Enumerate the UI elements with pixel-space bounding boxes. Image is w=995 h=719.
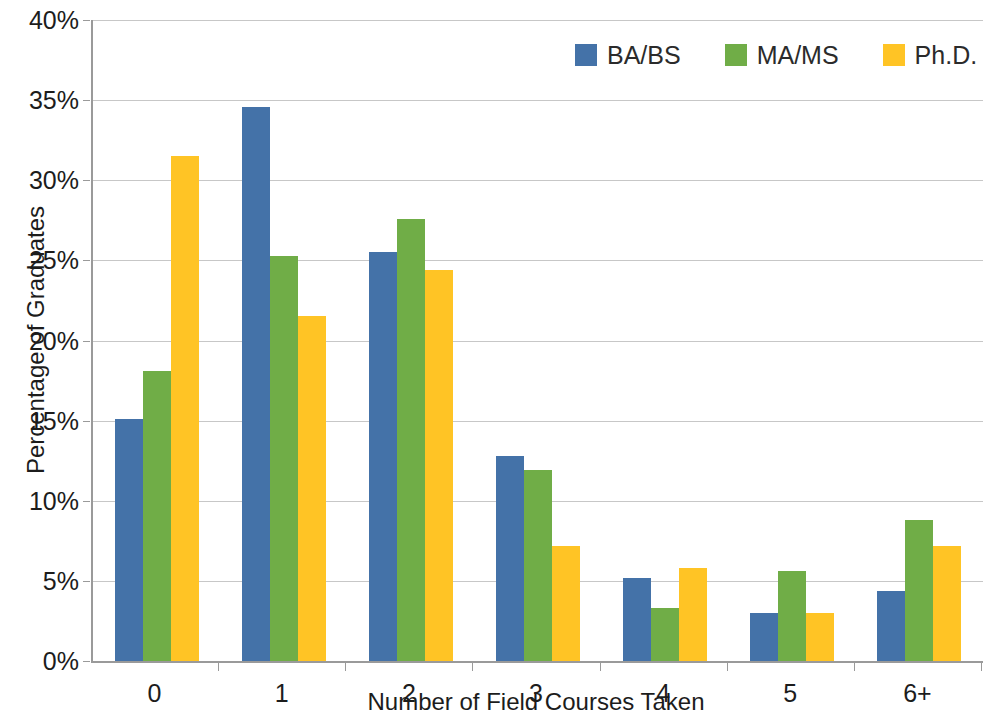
bar-MAMS-2[interactable] [397, 219, 425, 661]
y-axis-tick-label: 30% [0, 166, 79, 195]
y-axis-tick-label: 35% [0, 86, 79, 115]
bar-BABS-3[interactable] [496, 456, 524, 661]
y-axis-tick-mark [83, 421, 90, 422]
bar-MAMS-3[interactable] [524, 470, 552, 661]
x-axis-tick-mark [727, 663, 728, 671]
y-axis-tick-label: 10% [0, 486, 79, 515]
gridline [93, 20, 983, 21]
y-axis-tick-label: 0% [0, 647, 79, 676]
plot-area [91, 20, 983, 663]
bar-PhD-1[interactable] [298, 316, 326, 661]
y-axis-tick-label: 15% [0, 406, 79, 435]
bar-chart: BA/BS MA/MS Ph.D. Percentage of Graduate… [0, 0, 995, 719]
y-axis-tick-mark [83, 661, 90, 662]
bar-PhD-3[interactable] [552, 546, 580, 661]
y-axis-tick-mark [83, 341, 90, 342]
bar-BABS-2[interactable] [369, 252, 397, 661]
bar-MAMS-1[interactable] [270, 256, 298, 661]
bar-BABS-6+[interactable] [877, 591, 905, 662]
bar-PhD-5[interactable] [806, 613, 834, 661]
gridline [93, 260, 983, 261]
gridline [93, 421, 983, 422]
y-axis-tick-mark [83, 581, 90, 582]
x-axis-tick-mark [345, 663, 346, 671]
x-axis-tick-mark [981, 663, 982, 671]
x-axis-title: Number of Field Courses Taken [91, 688, 981, 716]
x-axis-tick-mark [472, 663, 473, 671]
y-axis-tick-label: 5% [0, 566, 79, 595]
bar-BABS-4[interactable] [623, 578, 651, 661]
bar-MAMS-0[interactable] [143, 371, 171, 661]
bar-PhD-6+[interactable] [933, 546, 961, 661]
y-axis-tick-mark [83, 501, 90, 502]
y-axis-tick-label: 40% [0, 6, 79, 35]
x-axis-tick-mark [218, 663, 219, 671]
gridline [93, 100, 983, 101]
y-axis-tick-label: 25% [0, 246, 79, 275]
y-axis-tick-mark [83, 100, 90, 101]
bar-MAMS-6+[interactable] [905, 520, 933, 661]
bar-PhD-2[interactable] [425, 270, 453, 661]
bar-BABS-0[interactable] [115, 419, 143, 661]
y-axis-tick-mark [83, 260, 90, 261]
y-axis-tick-mark [83, 180, 90, 181]
y-axis-tick-mark [83, 20, 90, 21]
x-axis-tick-mark [854, 663, 855, 671]
gridline [93, 180, 983, 181]
bar-PhD-0[interactable] [171, 156, 199, 661]
bar-PhD-4[interactable] [679, 568, 707, 661]
x-axis-tick-mark [600, 663, 601, 671]
y-axis-tick-label: 20% [0, 326, 79, 355]
gridline [93, 341, 983, 342]
bar-BABS-1[interactable] [242, 107, 270, 661]
bar-MAMS-5[interactable] [778, 571, 806, 661]
bar-BABS-5[interactable] [750, 613, 778, 661]
bar-MAMS-4[interactable] [651, 608, 679, 661]
